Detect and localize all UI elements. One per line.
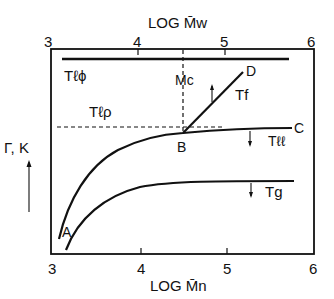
point-d-label: D <box>246 63 256 79</box>
t-g-label: Tg <box>265 183 283 200</box>
t-ll-label: Tℓℓ <box>268 133 286 149</box>
bottom-tick-label-6: 6 <box>309 260 317 277</box>
top-tick-label-3: 3 <box>44 33 52 50</box>
down-arrow-icon <box>249 192 253 198</box>
bottom-tick-label-3: 3 <box>48 260 56 277</box>
bottom-tick-label-5: 5 <box>223 260 231 277</box>
up-arrow-icon <box>210 84 214 90</box>
top-tick-label-5: 5 <box>220 33 228 50</box>
point-b-label: B <box>177 139 186 155</box>
bottom-tick-label-4: 4 <box>137 260 145 277</box>
t-g-curve <box>66 181 294 250</box>
top-axis-title: LOG M̄w <box>148 14 207 31</box>
t-lphi-label: Tℓϕ <box>64 67 86 84</box>
t-lrho-label: Tℓρ <box>89 103 112 120</box>
t-f-label: Tf <box>235 86 249 103</box>
mc-label: Mc <box>175 72 194 88</box>
bottom-axis-title: LOG M̄n <box>150 277 207 294</box>
y-axis-title: Γ, K <box>4 139 29 156</box>
phase-diagram: LOG M̄w 3 4 5 6 3 4 5 6 LOG M̄n Γ, K Tℓϕ… <box>0 0 334 299</box>
down-arrow-icon <box>248 141 252 147</box>
point-c-label: C <box>294 120 304 136</box>
top-tick-label-6: 6 <box>307 33 315 50</box>
top-tick-label-4: 4 <box>133 33 141 50</box>
up-arrow-icon <box>27 160 32 167</box>
